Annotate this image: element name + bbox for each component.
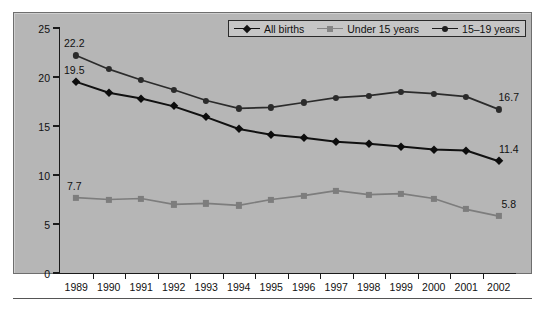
- data-point: [398, 191, 404, 197]
- data-point: [203, 200, 209, 206]
- legend-swatch-diamond-icon: [234, 24, 260, 34]
- data-point-label: 11.4: [499, 143, 519, 155]
- legend-label-under-15-years: Under 15 years: [347, 23, 419, 35]
- legend-item-under-15-years[interactable]: Under 15 years: [317, 23, 419, 35]
- data-point: [333, 188, 339, 194]
- data-point-label: 16.7: [499, 91, 519, 103]
- data-point: [171, 201, 177, 207]
- data-point: [496, 213, 502, 219]
- horizontal-rule: [13, 298, 532, 299]
- data-point-label: 7.7: [67, 180, 82, 192]
- chart-legend[interactable]: All births Under 15 years 15–19 years: [228, 20, 526, 37]
- data-point: [431, 195, 437, 201]
- data-point: [366, 192, 372, 198]
- data-point: [268, 196, 274, 202]
- data-point: [236, 202, 242, 208]
- legend-label-all-births: All births: [264, 23, 304, 35]
- legend-swatch-square-icon: [317, 24, 343, 34]
- data-point: [463, 206, 469, 212]
- legend-item-15-19-years[interactable]: 15–19 years: [432, 23, 520, 35]
- data-point-label: 22.2: [64, 37, 84, 49]
- data-point-label: 5.8: [501, 198, 516, 210]
- data-point-label: 19.5: [64, 64, 84, 76]
- data-point: [301, 192, 307, 198]
- legend-label-15-19-years: 15–19 years: [462, 23, 520, 35]
- figure-container: Percent 2520151050 198919901991199219931…: [0, 0, 545, 314]
- data-point: [106, 196, 112, 202]
- data-point: [73, 194, 79, 200]
- data-point: [138, 195, 144, 201]
- legend-item-all-births[interactable]: All births: [234, 23, 304, 35]
- legend-swatch-circle-icon: [432, 24, 458, 34]
